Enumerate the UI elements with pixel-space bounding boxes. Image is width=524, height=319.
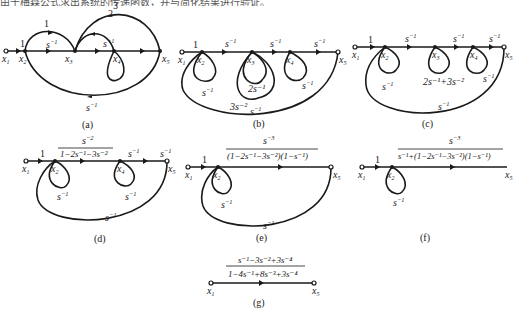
- svg-text:x1: x1: [184, 169, 192, 181]
- diagram-b: 1 s−1 s−1 s−1 s−1 2s⁻¹ 3s⁻² s−1 s−1 x1 x…: [177, 37, 346, 130]
- svg-text:x1: x1: [351, 49, 359, 61]
- gain-x3-x5-inner: 2: [108, 8, 113, 19]
- svg-text:s−1: s−1: [202, 86, 214, 98]
- gain-x2-x3-upper: 1: [44, 18, 49, 29]
- svg-text:s−1: s−1: [393, 196, 405, 208]
- caption-g: (g): [253, 297, 265, 309]
- svg-text:s−1: s−1: [483, 72, 495, 84]
- svg-text:x5: x5: [332, 169, 340, 181]
- svg-text:x4: x4: [116, 163, 124, 175]
- diagram-g: s⁻¹−3s⁻²+3s⁻⁴ 1−4s⁻¹+8s⁻³+3s⁻⁴ x1 x5 (g): [206, 255, 319, 309]
- svg-text:1: 1: [202, 154, 207, 165]
- svg-text:x3: x3: [431, 49, 439, 61]
- svg-text:x5: x5: [504, 169, 512, 181]
- caption-f: (f): [420, 232, 430, 244]
- svg-text:x1: x1: [177, 54, 185, 66]
- gain-x2-x4-den: 1−2s⁻¹−3s⁻²: [60, 149, 108, 159]
- svg-text:s−1: s−1: [105, 211, 117, 223]
- svg-text:x4: x4: [112, 53, 120, 65]
- svg-text:s−1: s−1: [221, 198, 233, 210]
- svg-text:x1: x1: [206, 285, 214, 297]
- signal-flow-graph-figure: 1 1 s−1 3 2 s−1 s−1 x1 x2 x3 x4 x5 (a) 1…: [0, 0, 524, 319]
- caption-a: (a): [82, 119, 93, 131]
- gain-x2-x5-den: (1−2s⁻¹−3s⁻²)(1−s⁻¹): [227, 151, 308, 161]
- diagram-d: 1 s−2 1−2s⁻¹−3s⁻² s−1 s−1 s−1 s−1 s−1 x1…: [21, 134, 175, 245]
- svg-text:s−1: s−1: [302, 79, 314, 91]
- svg-text:x5: x5: [311, 285, 319, 297]
- svg-text:x2: x2: [18, 53, 26, 65]
- caption-e: (e): [256, 232, 267, 244]
- svg-text:x2: x2: [380, 49, 388, 61]
- gain-x3-self-outer: 3s⁻²: [229, 101, 248, 112]
- svg-text:s−3: s−3: [263, 134, 275, 146]
- svg-text:s−1: s−1: [57, 190, 69, 202]
- diagram-c: 1 s−1 s−1 s−1 s−1 2s⁻¹+3s⁻² s−1 s−1 x1 x…: [351, 32, 512, 130]
- svg-text:s−1: s−1: [160, 147, 172, 159]
- gain-x3-self-inner: 2s⁻¹: [248, 83, 265, 94]
- svg-text:x2: x2: [196, 54, 204, 66]
- svg-text:x1: x1: [357, 169, 365, 181]
- svg-text:s−2: s−2: [82, 134, 94, 146]
- svg-text:1: 1: [368, 34, 373, 45]
- svg-text:x1: x1: [21, 163, 29, 175]
- svg-text:x4: x4: [469, 49, 477, 61]
- svg-text:s−1: s−1: [314, 37, 326, 49]
- svg-text:s−1: s−1: [489, 32, 501, 44]
- svg-text:x5: x5: [338, 54, 346, 66]
- svg-text:x5: x5: [167, 163, 175, 175]
- svg-text:x2: x2: [212, 169, 220, 181]
- gain-x3-x5-outer: 3: [113, 0, 118, 11]
- diagram-e: 1 s−3 (1−2s⁻¹−3s⁻²)(1−s⁻¹) s−1 s−1 x1 x2…: [184, 134, 340, 244]
- svg-text:s−1: s−1: [250, 105, 262, 117]
- svg-text:x5: x5: [504, 49, 512, 61]
- svg-text:s−3: s−3: [449, 134, 461, 146]
- gain-x2-x5-den: s⁻¹+(1−2s⁻¹−3s⁻²)(1−s⁻¹): [398, 151, 491, 161]
- diagram-a: 1 1 s−1 3 2 s−1 s−1 x1 x2 x3 x4 x5 (a): [1, 0, 169, 131]
- svg-text:x4: x4: [285, 54, 293, 66]
- svg-text:s−1: s−1: [382, 80, 394, 92]
- svg-text:1: 1: [40, 148, 45, 159]
- svg-text:s−1: s−1: [405, 32, 417, 44]
- svg-text:s−1: s−1: [225, 37, 237, 49]
- svg-text:x5: x5: [161, 53, 169, 65]
- svg-text:s−1: s−1: [263, 219, 275, 231]
- caption-b: (b): [253, 118, 265, 130]
- gain-x3-self: 2s⁻¹+3s⁻²: [423, 76, 465, 87]
- svg-text:x2: x2: [386, 169, 394, 181]
- svg-text:s−1: s−1: [125, 190, 137, 202]
- svg-text:s−1: s−1: [128, 147, 140, 159]
- svg-text:s−1: s−1: [270, 37, 282, 49]
- caption-c: (c): [422, 118, 433, 130]
- svg-text:s−1: s−1: [453, 32, 465, 44]
- gain-x1-x2: 1: [20, 38, 25, 49]
- svg-text:s−1: s−1: [86, 101, 98, 113]
- svg-text:x3: x3: [246, 54, 254, 66]
- svg-text:s−1: s−1: [46, 38, 58, 50]
- gain-x1-x5-den: 1−4s⁻¹+8s⁻³+3s⁻⁴: [228, 269, 298, 279]
- svg-text:x3: x3: [64, 53, 72, 65]
- gain-x1-x5-num: s⁻¹−3s⁻²+3s⁻⁴: [238, 255, 292, 265]
- svg-text:1: 1: [193, 39, 198, 50]
- svg-text:x1: x1: [1, 53, 9, 65]
- svg-text:x2: x2: [50, 163, 58, 175]
- caption-d: (d): [94, 233, 106, 245]
- diagram-f: 1 s−3 s⁻¹+(1−2s⁻¹−3s⁻²)(1−s⁻¹) s−1 x1 x2…: [357, 134, 512, 244]
- svg-text:1: 1: [375, 154, 380, 165]
